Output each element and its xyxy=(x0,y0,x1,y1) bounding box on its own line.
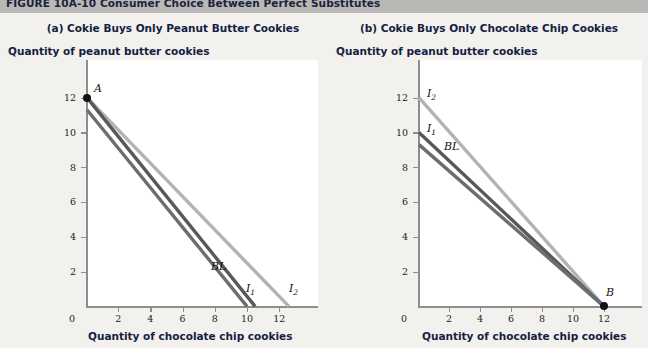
panel-b-xtick-label-8: 8 xyxy=(534,313,550,324)
panel-a-xtick-label-6: 6 xyxy=(175,313,191,324)
panel-b-plot-area: 12 10 8 6 4 2 0 2 4 6 8 10 12 xyxy=(418,60,642,308)
panel-a-title: (a) Cokie Buys Only Peanut Butter Cookie… xyxy=(0,22,324,34)
panel-b-curve-I2 xyxy=(419,98,604,307)
panel-a-label-I2: I2 xyxy=(289,282,298,297)
panel-a-label-I1-sub: 1 xyxy=(250,288,255,297)
panel-a-label-BL: BL xyxy=(211,260,226,273)
panel-a-xtick-label-2: 2 xyxy=(110,313,126,324)
panel-a-xtick-label-12: 12 xyxy=(271,313,287,324)
panel-a-x-axis-label: Quantity of chocolate chip cookies xyxy=(88,330,292,342)
figure-root: FIGURE 10A-10 Consumer Choice Between Pe… xyxy=(0,0,648,348)
panel-a-y-axis-label: Quantity of peanut butter cookies xyxy=(8,45,94,58)
panel-a-label-I1: I1 xyxy=(246,282,255,297)
panel-a-curve-I1 xyxy=(87,98,255,307)
panel-a-xtick-label-10: 10 xyxy=(239,313,255,324)
panel-b: (b) Cokie Buys Only Chocolate Chip Cooki… xyxy=(324,13,648,348)
panel-a-ytick-label-10: 10 xyxy=(60,127,76,138)
panel-b-curve-BL xyxy=(419,145,604,307)
panel-b-label-I1-sub: 1 xyxy=(431,128,436,137)
panel-a-curves xyxy=(86,60,318,310)
panel-a-ytick-label-6: 6 xyxy=(60,196,76,207)
panel-b-xtick-label-0: 0 xyxy=(396,313,412,324)
panel-a-curve-BL xyxy=(87,110,247,307)
panel-a-ytick-label-12: 12 xyxy=(60,92,76,103)
panel-a-xtick-label-8: 8 xyxy=(207,313,223,324)
panel-b-ytick-label-2: 2 xyxy=(392,266,408,277)
panel-b-point-B-label: B xyxy=(606,286,614,299)
panel-b-curves xyxy=(418,60,642,310)
panel-b-xtick-label-10: 10 xyxy=(565,313,581,324)
panel-a-point-A-marker xyxy=(83,94,91,102)
panel-b-label-I1: I1 xyxy=(427,122,436,137)
panel-b-xtick-label-4: 4 xyxy=(472,313,488,324)
figure-title: FIGURE 10A-10 Consumer Choice Between Pe… xyxy=(6,0,380,9)
panel-a-ytick-label-4: 4 xyxy=(60,231,76,242)
panel-a-xtick-label-4: 4 xyxy=(142,313,158,324)
panel-b-ytick-label-12: 12 xyxy=(392,92,408,103)
panel-a-point-A-label: A xyxy=(94,82,102,95)
panel-b-ytick-label-10: 10 xyxy=(392,127,408,138)
panel-b-xtick-label-6: 6 xyxy=(503,313,519,324)
figure-title-band: FIGURE 10A-10 Consumer Choice Between Pe… xyxy=(0,0,648,13)
panel-b-ytick-label-4: 4 xyxy=(392,231,408,242)
panel-b-xtick-label-12: 12 xyxy=(596,313,612,324)
panel-a-curve-I2 xyxy=(87,98,289,307)
panel-b-ytick-label-8: 8 xyxy=(392,162,408,173)
panel-a-ytick-label-2: 2 xyxy=(60,266,76,277)
panel-b-label-BL: BL xyxy=(444,140,459,153)
panel-b-label-I2: I2 xyxy=(427,87,436,102)
panel-a-plot-area: 12 10 8 6 4 2 0 2 4 6 8 10 12 xyxy=(86,60,318,308)
panel-b-xtick-label-2: 2 xyxy=(441,313,457,324)
panel-b-label-I2-sub: 2 xyxy=(431,93,436,102)
panel-a-ytick-label-8: 8 xyxy=(60,162,76,173)
panel-b-title: (b) Cokie Buys Only Chocolate Chip Cooki… xyxy=(324,22,648,34)
panel-a-label-I2-sub: 2 xyxy=(293,288,298,297)
panel-b-x-axis-label: Quantity of chocolate chip cookies xyxy=(422,330,626,342)
panel-a-label-BL-text: BL xyxy=(211,260,226,273)
panel-b-y-axis-label: Quantity of peanut butter cookies xyxy=(336,45,422,58)
panel-a: (a) Cokie Buys Only Peanut Butter Cookie… xyxy=(0,13,324,348)
panel-b-ytick-label-6: 6 xyxy=(392,196,408,207)
panel-b-label-BL-text: BL xyxy=(444,140,459,153)
panel-a-xtick-label-0: 0 xyxy=(64,313,80,324)
